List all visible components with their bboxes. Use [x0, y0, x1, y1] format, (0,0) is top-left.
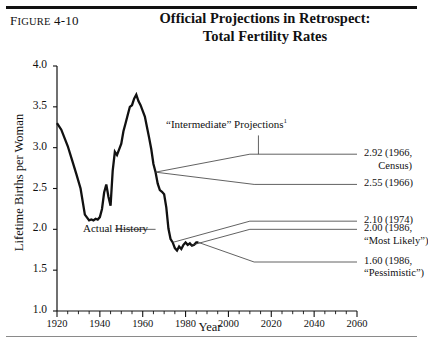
label-2-92: 2.92 (1966,Census) [364, 147, 412, 172]
label-2-92-line-1: 2.92 (1966, [364, 147, 412, 158]
projections-annotation-text: “Intermediate” Projections [166, 118, 284, 130]
series-line [198, 242, 357, 262]
y-tick-label: 1.0 [13, 303, 47, 315]
projections-annotation: “Intermediate” Projections1 [166, 117, 287, 130]
x-axis-ticks [57, 311, 357, 317]
y-tick-label: 4.0 [13, 58, 47, 70]
label-2-00-line-1: 2.00 (1986, [364, 222, 412, 233]
label-2-55-line-1: 2.55 (1966) [364, 177, 413, 188]
x-axis-title: Year [150, 320, 270, 335]
series-line [156, 172, 357, 184]
series-line [190, 229, 357, 245]
y-axis-title: Lifetime Births per Woman [12, 78, 27, 288]
label-2-92-line-2: Census) [364, 160, 412, 172]
x-tick-label: 1940 [80, 318, 120, 329]
label-2-00: 2.00 (1986,“Most Likely”) [364, 222, 428, 247]
label-1-60-line-1: 1.60 (1986, [364, 255, 412, 266]
x-tick-label: 2060 [337, 318, 377, 329]
actual-history-annotation: Actual History [83, 222, 148, 235]
axes [57, 66, 357, 311]
x-tick-label: 2040 [294, 318, 334, 329]
label-2-00-line-2: “Most Likely”) [364, 235, 428, 247]
x-tick-label: 1920 [37, 318, 77, 329]
series-line [173, 221, 357, 242]
label-1-60-line-2: “Pessimistic”) [364, 267, 424, 279]
label-2-55: 2.55 (1966) [364, 177, 413, 189]
series-line [156, 154, 357, 172]
projections-footnote-marker: 1 [284, 117, 288, 125]
label-1-60: 1.60 (1986,“Pessimistic”) [364, 255, 424, 280]
